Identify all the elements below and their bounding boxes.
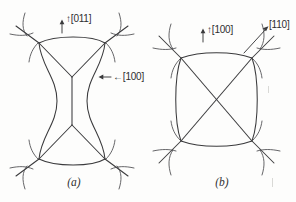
arrow-up-100 — [201, 29, 206, 43]
inner-y-top — [39, 43, 105, 125]
hourglass-right-side — [87, 43, 105, 159]
node-bottom-right — [252, 121, 280, 175]
figure-root: ↑[011] ←[100] (a) — [0, 0, 296, 202]
node-top-right — [105, 13, 134, 62]
panel-a-caption: (a) — [0, 176, 148, 188]
node-top-right — [252, 24, 280, 78]
hourglass-top-arc — [39, 37, 105, 43]
direction-label-011: ↑[011] — [66, 13, 91, 24]
scan-artifact-speck — [272, 178, 273, 187]
arrow-up-011 — [60, 20, 65, 34]
figure-panel-b: ↑[100] [110] (b) — [148, 0, 296, 202]
node-top-left — [153, 24, 181, 78]
arrow-left-100 — [99, 75, 112, 80]
panel-a-drawing — [0, 0, 148, 202]
scan-artifact-speck-2 — [268, 86, 269, 93]
direction-label-110: [110] — [269, 19, 290, 30]
hourglass-bottom-arc — [39, 159, 105, 165]
direction-label-100-b: ↑[100] — [207, 24, 233, 35]
panel-b-caption: (b) — [148, 176, 296, 188]
node-bottom-left — [153, 121, 181, 175]
node-top-left — [10, 13, 39, 62]
figure-panel-a: ↑[011] ←[100] (a) — [0, 0, 148, 202]
hourglass-left-side — [39, 43, 57, 159]
direction-label-100-a: ←[100] — [113, 71, 144, 82]
